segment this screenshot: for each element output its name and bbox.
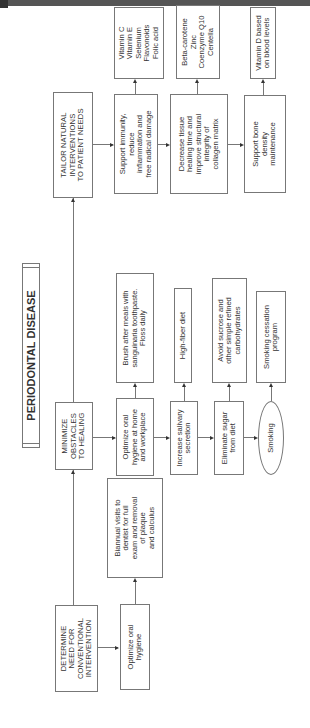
arrow-icon [133,578,137,582]
connector [184,387,185,401]
arrow-icon [227,383,231,387]
determine-detail-biannual-visits: Biannual visits to dentist for full exam… [107,478,163,578]
arrow-icon [182,383,186,387]
minimize-step-1: Optimize oral hygiene at home and workpl… [116,398,154,476]
connector [197,83,198,94]
stage-determine: DETERMINE NEED FOR CONVENTIONAL INTERVEN… [55,605,98,692]
arrow-icon [133,79,137,83]
tailor-detail-1: Vitamin C Vitamin E Selenium Flavonoids … [114,7,164,79]
tailor-step-1: Support immunity, reduce inflammation an… [114,94,158,194]
tailor-step-3: Support bone density maintenance [244,95,286,193]
arrow-icon [195,79,199,83]
connector [271,387,272,401]
arrow-icon [71,470,75,474]
spacer [107,600,111,604]
connector [229,387,230,401]
minimize-detail-3: Avoid sucrose and other simple refined c… [212,278,247,383]
flowchart-canvas: PERIODONTAL DISEASE DETERMINE NEED FOR C… [0,0,310,728]
stage-minimize: MINIMIZE OBSTACLES TO HEALING [55,402,93,470]
spine-connector-1 [73,470,74,605]
minimize-step-2: Increase salivary secretion [170,401,198,475]
minimize-step-3: Eliminate sugar from diet [214,401,244,475]
spine-connector-2 [73,198,74,402]
arrow-icon [133,383,137,387]
minimize-detail-2: High-fiber diet [174,288,192,383]
arrow-icon [261,79,265,83]
connector [135,387,136,398]
tailor-detail-2: Beta-carotene Zinc Coenzyme Q10 Centella [176,5,220,79]
tailor-detail-3: Vitamin D based on blood levels [250,7,276,79]
connector [135,582,136,604]
connector [135,83,136,94]
minimize-detail-1: Brush after meals with sanguinaria tooth… [116,273,154,383]
connector [263,83,264,95]
arrow-icon [269,383,273,387]
arrow-icon [71,198,75,202]
stage-tailor: TAILOR NATURAL INTERVENTIONS TO PATIENT … [53,92,93,198]
diagram-title: PERIODONTAL DISEASE [22,263,40,448]
minimize-detail-smoking: Smoking cessation program [256,291,286,383]
minimize-step-smoking: Smoking [258,401,284,475]
determine-step-optimize-oral-hygiene: Optimize oral hygiene [120,604,150,690]
tailor-step-2: Decrease tissue healing time and improve… [170,94,228,194]
arrow-icon [115,646,119,650]
